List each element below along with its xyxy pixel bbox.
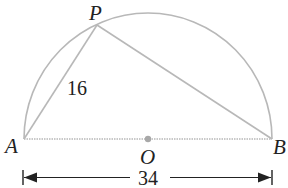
- label-p: P: [88, 1, 102, 25]
- semicircle-diagram: P A B O 16 34: [0, 0, 288, 188]
- segment-pb: [97, 25, 272, 139]
- label-a: A: [3, 134, 18, 158]
- label-o: O: [140, 145, 155, 169]
- label-ap-length: 16: [67, 77, 87, 99]
- label-diameter-length: 34: [138, 167, 158, 188]
- label-b: B: [273, 135, 286, 159]
- semicircle-arc: [24, 13, 272, 139]
- center-point-o: [145, 136, 151, 142]
- dimension-line: 34: [23, 167, 272, 188]
- arrowhead-right-icon: [258, 173, 271, 183]
- arrowhead-left-icon: [24, 173, 37, 183]
